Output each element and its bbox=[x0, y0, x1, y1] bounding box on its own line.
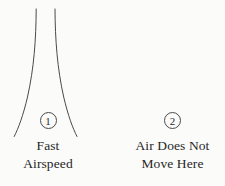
callout-1: 1 Fast Airspeed bbox=[0, 110, 96, 172]
callout-1-label: Fast Airspeed bbox=[0, 137, 96, 172]
callout-1-badge: 1 bbox=[40, 112, 57, 129]
callout-2: 2 Air Does Not Move Here bbox=[120, 110, 225, 172]
airflow-diagram: 1 Fast Airspeed 2 Air Does Not Move Here bbox=[0, 0, 225, 186]
callout-2-badge: 2 bbox=[164, 112, 181, 129]
callout-2-label: Air Does Not Move Here bbox=[120, 137, 225, 172]
